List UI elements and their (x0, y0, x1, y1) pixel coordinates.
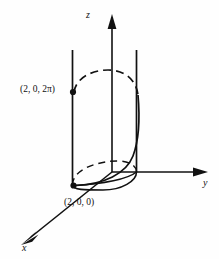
y-axis-label: y (203, 178, 207, 188)
z-axis-label: z (86, 10, 90, 20)
helix-cylinder-diagram (0, 0, 219, 259)
x-axis-label: x (22, 243, 26, 253)
point-label-origin: (2, 0, 0) (64, 198, 94, 208)
z-axis (108, 14, 117, 172)
base-circle-back (73, 161, 137, 185)
point-marker-top (70, 89, 76, 95)
y-axis (112, 168, 208, 177)
helix-back (74, 70, 138, 95)
figure-container: z y x (2, 0, 2π) (2, 0, 0) (0, 0, 219, 259)
point-marker-origin (70, 182, 76, 188)
point-label-top: (2, 0, 2π) (20, 85, 55, 95)
